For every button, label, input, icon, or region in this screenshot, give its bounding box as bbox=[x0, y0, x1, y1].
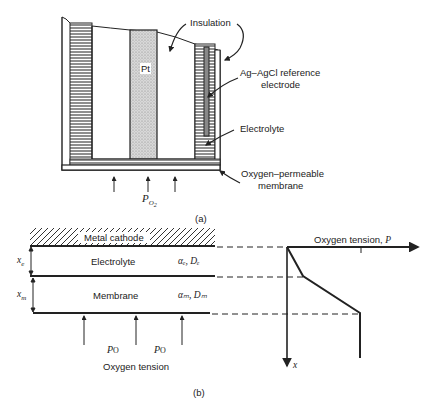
xe-label: xe bbox=[17, 255, 24, 270]
left-electrolyte-column bbox=[70, 23, 92, 165]
reference-electrode-label-1: Ag–AgCl reference bbox=[240, 67, 320, 78]
dashed-guides bbox=[212, 247, 360, 314]
caption-a: (a) bbox=[195, 213, 207, 224]
metal-cathode-label: Metal cathode bbox=[84, 232, 144, 243]
pt-label: Pt bbox=[140, 63, 151, 74]
membrane-label-2: membrane bbox=[258, 180, 303, 191]
insulation-label: Insulation bbox=[190, 17, 231, 28]
po-right-label: PO bbox=[154, 344, 166, 356]
xm-label: xm bbox=[17, 289, 26, 304]
membrane-label-b: Membrane bbox=[93, 290, 138, 301]
oxygen-permeable-membrane bbox=[62, 165, 220, 170]
oxygen-flux-arrows-b bbox=[84, 316, 182, 345]
diagram-canvas bbox=[0, 0, 432, 406]
electrolyte-properties: αₑ, Dₑ bbox=[178, 256, 200, 267]
oxygen-flux-arrows-a bbox=[114, 177, 175, 192]
po2-label: PO2 bbox=[142, 193, 157, 212]
thickness-markers bbox=[29, 247, 35, 312]
electrolyte-label-b: Electrolyte bbox=[91, 256, 135, 267]
electrolyte-label-a: Electrolyte bbox=[240, 123, 284, 134]
reference-electrode-label-2: electrode bbox=[261, 79, 300, 90]
p-axis-label: Oxygen tension, P bbox=[314, 234, 391, 246]
reference-electrode bbox=[204, 47, 209, 136]
tension-profile bbox=[287, 247, 360, 358]
bottom-electrolyte-layer bbox=[70, 159, 220, 165]
platinum-cathode bbox=[130, 30, 157, 159]
membrane-label-1: Oxygen–permeable bbox=[241, 168, 324, 179]
electrode-cell bbox=[62, 17, 220, 170]
oxygen-tension-graph bbox=[287, 247, 418, 366]
oxygen-tension-label: Oxygen tension bbox=[103, 361, 169, 372]
po-left-label: PO bbox=[107, 344, 119, 356]
x-axis-label: x bbox=[293, 360, 297, 371]
caption-b: (b) bbox=[193, 387, 205, 398]
membrane-properties: αₘ, Dₘ bbox=[178, 290, 207, 301]
